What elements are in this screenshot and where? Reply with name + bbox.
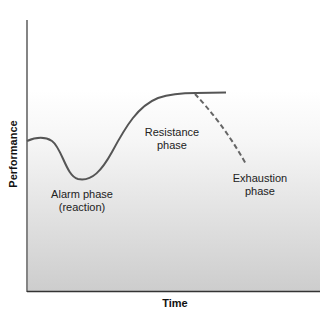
chart-svg: [0, 0, 330, 313]
alarm-label-line2: (reaction): [42, 201, 122, 214]
exhaustion-label-line1: Exhaustion: [220, 172, 300, 185]
general-adaptation-diagram: Alarm phase (reaction) Resistance phase …: [0, 0, 330, 313]
exhaustion-phase-label: Exhaustion phase: [220, 172, 300, 198]
exhaustion-label-line2: phase: [220, 185, 300, 198]
x-axis-title: Time: [150, 297, 200, 309]
resistance-phase-label: Resistance phase: [132, 126, 212, 152]
resistance-label-line1: Resistance: [132, 126, 212, 139]
resistance-label-line2: phase: [132, 139, 212, 152]
alarm-phase-label: Alarm phase (reaction): [42, 188, 122, 214]
alarm-label-line1: Alarm phase: [42, 188, 122, 201]
y-axis-title: Performance: [7, 114, 19, 194]
